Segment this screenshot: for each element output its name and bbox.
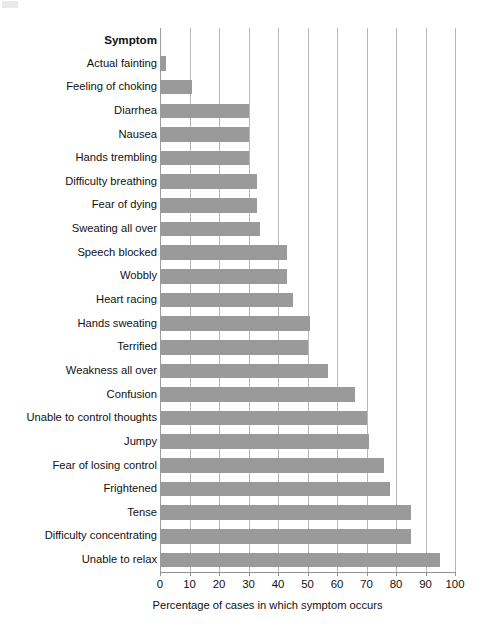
x-tick-mark xyxy=(249,572,250,576)
bar-track xyxy=(160,430,455,454)
bar-track xyxy=(160,359,455,383)
bar xyxy=(160,364,328,379)
bar-track xyxy=(160,454,455,478)
bar xyxy=(160,269,287,284)
bar-row: Actual fainting xyxy=(0,52,483,76)
bar-row: Wobbly xyxy=(0,264,483,288)
bar xyxy=(160,198,257,213)
bar-track xyxy=(160,312,455,336)
category-label: Diarrhea xyxy=(114,99,157,123)
bar-row: Tense xyxy=(0,501,483,525)
bar xyxy=(160,245,287,260)
bar-track xyxy=(160,217,455,241)
x-axis-title: Percentage of cases in which symptom occ… xyxy=(0,599,483,611)
x-tick-label: 70 xyxy=(360,578,373,590)
bar-track xyxy=(160,123,455,147)
bar-row: Difficulty concentrating xyxy=(0,524,483,548)
x-tick-label: 100 xyxy=(445,578,464,590)
x-tick-mark xyxy=(426,572,427,576)
bar-row: Frightened xyxy=(0,477,483,501)
bar-row: Hands trembling xyxy=(0,146,483,170)
bar-row: Fear of losing control xyxy=(0,454,483,478)
category-label: Confusion xyxy=(107,383,157,407)
category-label: Heart racing xyxy=(96,288,157,312)
bar xyxy=(160,80,192,95)
bar-track xyxy=(160,170,455,194)
bar xyxy=(160,104,249,119)
x-tick-mark xyxy=(278,572,279,576)
category-label: Speech blocked xyxy=(77,241,157,265)
category-label: Tense xyxy=(127,501,157,525)
bar-track xyxy=(160,288,455,312)
bar-row: Sweating all over xyxy=(0,217,483,241)
bar xyxy=(160,316,310,331)
header-bar-track xyxy=(160,28,455,52)
bar-track xyxy=(160,383,455,407)
x-tick-mark xyxy=(455,572,456,576)
category-label: Fear of losing control xyxy=(53,454,157,478)
x-tick-mark xyxy=(337,572,338,576)
bar-track xyxy=(160,406,455,430)
bar-row: Weakness all over xyxy=(0,359,483,383)
bar xyxy=(160,434,369,449)
bar-track xyxy=(160,264,455,288)
x-tick-mark xyxy=(396,572,397,576)
category-label: Wobbly xyxy=(120,264,157,288)
bar-row: Nausea xyxy=(0,123,483,147)
bar-row: Diarrhea xyxy=(0,99,483,123)
category-label: Hands sweating xyxy=(77,312,157,336)
bar-row: Heart racing xyxy=(0,288,483,312)
x-tick-mark xyxy=(160,572,161,576)
bar xyxy=(160,56,166,71)
x-tick-label: 50 xyxy=(301,578,314,590)
bar xyxy=(160,387,355,402)
category-label: Sweating all over xyxy=(72,217,157,241)
bar xyxy=(160,127,249,142)
category-label: Hands trembling xyxy=(76,146,157,170)
x-tick-label: 40 xyxy=(272,578,285,590)
bar-row: Unable to control thoughts xyxy=(0,406,483,430)
x-tick-mark xyxy=(190,572,191,576)
x-tick-label: 80 xyxy=(390,578,403,590)
column-header-row: Symptom xyxy=(0,28,483,52)
category-label: Unable to relax xyxy=(82,548,157,572)
category-label: Feeling of choking xyxy=(66,75,157,99)
bar-track xyxy=(160,241,455,265)
bar-row: Fear of dying xyxy=(0,193,483,217)
bar xyxy=(160,458,384,473)
bar xyxy=(160,222,260,237)
category-label: Jumpy xyxy=(124,430,157,454)
category-label: Weakness all over xyxy=(66,359,157,383)
symptom-column-header: Symptom xyxy=(104,28,157,52)
x-tick-mark xyxy=(308,572,309,576)
x-tick-label: 90 xyxy=(419,578,432,590)
category-label: Frightened xyxy=(104,477,158,501)
x-tick-label: 0 xyxy=(157,578,163,590)
x-tick-label: 30 xyxy=(242,578,255,590)
x-tick-label: 60 xyxy=(331,578,344,590)
bar-row: Hands sweating xyxy=(0,312,483,336)
category-label: Difficulty concentrating xyxy=(45,524,157,548)
x-tick-mark xyxy=(367,572,368,576)
bar xyxy=(160,553,440,568)
bar-track xyxy=(160,146,455,170)
category-label: Terrified xyxy=(117,335,157,359)
bar xyxy=(160,293,293,308)
category-label: Difficulty breathing xyxy=(65,170,157,194)
bar-track xyxy=(160,548,455,572)
bar xyxy=(160,340,308,355)
bar-row: Feeling of choking xyxy=(0,75,483,99)
bar xyxy=(160,482,390,497)
x-tick-mark xyxy=(219,572,220,576)
x-tick-label: 10 xyxy=(183,578,196,590)
category-label: Unable to control thoughts xyxy=(26,406,157,430)
category-label: Fear of dying xyxy=(92,193,157,217)
category-label: Nausea xyxy=(118,123,157,147)
bar-track xyxy=(160,52,455,76)
bar-track xyxy=(160,99,455,123)
bar-track xyxy=(160,75,455,99)
horizontal-bar-chart: Symptom Actual faintingFeeling of chokin… xyxy=(0,0,483,631)
category-label: Actual fainting xyxy=(87,52,157,76)
bar xyxy=(160,411,367,426)
bar-track xyxy=(160,335,455,359)
